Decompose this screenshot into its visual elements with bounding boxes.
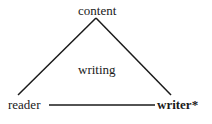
center-label-writing: writing: [78, 63, 116, 76]
edge-content-reader: [18, 18, 96, 95]
edge-content-writer: [96, 18, 171, 95]
node-content: content: [78, 4, 116, 17]
node-reader: reader: [8, 98, 40, 111]
node-writer: writer*: [157, 98, 198, 111]
